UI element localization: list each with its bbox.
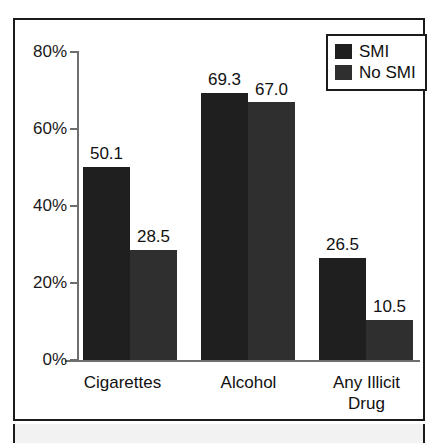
legend-item-smi[interactable]: SMI (335, 41, 416, 62)
legend-label-smi: SMI (359, 42, 389, 62)
value-label-any-illicit-drug-smi: 26.5 (319, 235, 366, 255)
legend-label-no-smi: No SMI (359, 63, 416, 83)
bar-alcohol-smi[interactable] (201, 93, 248, 360)
value-label-alcohol-smi: 69.3 (201, 70, 248, 90)
value-label-alcohol-no-smi: 67.0 (248, 80, 295, 100)
no-smi-swatch-icon (335, 65, 352, 80)
legend-item-no-smi[interactable]: No SMI (335, 62, 416, 83)
chart-page: 80% 60% 40% 20% 0% 50.1 (0, 0, 444, 443)
bar-alcohol-no-smi[interactable] (248, 102, 295, 360)
value-label-any-illicit-drug-no-smi: 10.5 (366, 297, 413, 317)
x-label-cigarettes: Cigarettes (65, 372, 180, 393)
value-label-cigarettes-smi: 50.1 (83, 144, 130, 164)
chart-frame: 80% 60% 40% 20% 0% 50.1 (13, 18, 425, 421)
legend: SMI No SMI (326, 34, 427, 91)
bar-any-illicit-drug-no-smi[interactable] (366, 320, 413, 360)
x-label-any-illicit-drug: Any Illicit Drug (309, 372, 424, 414)
x-axis-line (65, 360, 420, 362)
bar-any-illicit-drug-smi[interactable] (319, 258, 366, 360)
x-label-alcohol: Alcohol (191, 372, 306, 393)
caption-strip (13, 424, 425, 443)
bar-cigarettes-no-smi[interactable] (130, 250, 177, 360)
plot-area: 80% 60% 40% 20% 0% 50.1 (15, 20, 423, 419)
value-label-cigarettes-no-smi: 28.5 (130, 227, 177, 247)
bar-cigarettes-smi[interactable] (83, 167, 130, 360)
smi-swatch-icon (335, 44, 352, 59)
